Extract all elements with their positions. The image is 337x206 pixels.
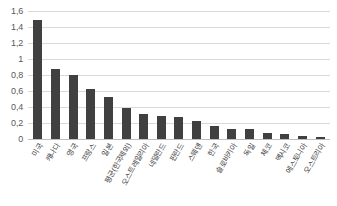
plot-area — [28, 11, 330, 139]
bar[interactable] — [157, 116, 166, 139]
y-axis-tick-label: 0,8 — [11, 71, 23, 80]
bar[interactable] — [316, 137, 325, 139]
bar-slot — [188, 11, 206, 139]
bar-slot — [152, 11, 170, 139]
bar[interactable] — [280, 134, 289, 139]
x-label-slot: 오스트레일리아 — [135, 140, 153, 206]
x-axis-tick-label: 스웨덴 — [187, 142, 204, 163]
x-label-slot: 영국 — [64, 140, 82, 206]
x-label-slot: 스웨덴 — [188, 140, 206, 206]
x-axis-tick-label: 핀란드 — [169, 142, 186, 163]
x-label-slot: 오스트리아 — [311, 140, 329, 206]
bar-slot — [170, 11, 188, 139]
y-axis-tick-label: 1 — [18, 55, 23, 64]
bar[interactable] — [192, 121, 201, 139]
x-label-slot: 미국 — [29, 140, 47, 206]
bar[interactable] — [245, 129, 254, 139]
x-axis-tick-label: 한국 — [208, 142, 222, 158]
x-axis-category-labels: 미국캐나다영국프랑스일본평균(한국제외)오스트레일리아네덜란드핀란드스웨덴한국슬… — [28, 140, 330, 206]
x-label-slot: 캐나다 — [47, 140, 65, 206]
bar[interactable] — [298, 136, 307, 139]
bar-slot — [311, 11, 329, 139]
x-axis-tick-label: 미국 — [31, 142, 45, 158]
bar-slot — [223, 11, 241, 139]
y-axis-tick-label: 0,6 — [11, 87, 23, 96]
bar-slot — [205, 11, 223, 139]
bar[interactable] — [227, 129, 236, 139]
x-label-slot: 프랑스 — [82, 140, 100, 206]
bar[interactable] — [139, 114, 148, 139]
bar-slot — [82, 11, 100, 139]
x-label-slot: 슬로바키아 — [223, 140, 241, 206]
bar[interactable] — [69, 75, 78, 139]
y-axis-tick-label: 0 — [18, 135, 23, 144]
x-label-slot: 네덜란드 — [152, 140, 170, 206]
bar-slot — [64, 11, 82, 139]
x-axis-tick-label: 독일 — [243, 142, 257, 158]
bar-slot — [135, 11, 153, 139]
y-axis-tick-label: 1,4 — [11, 23, 23, 32]
x-label-slot: 핀란드 — [170, 140, 188, 206]
bar[interactable] — [122, 108, 131, 139]
bar-slot — [117, 11, 135, 139]
x-label-slot: 체코 — [258, 140, 276, 206]
bar[interactable] — [86, 89, 95, 139]
y-axis-tick-label: 0,4 — [11, 103, 23, 112]
bar-slot — [241, 11, 259, 139]
x-axis-tick-label: 프랑스 — [81, 142, 98, 163]
bar-chart: 00,20,40,60,811,21,41,6 미국캐나다영국프랑스일본평균(한… — [0, 0, 337, 206]
x-label-slot: 독일 — [241, 140, 259, 206]
bar[interactable] — [51, 69, 60, 139]
y-axis-tick-labels: 00,20,40,60,811,21,41,6 — [0, 11, 26, 139]
bar-series — [28, 11, 330, 139]
bar[interactable] — [210, 126, 219, 139]
bar-slot — [276, 11, 294, 139]
y-axis-tick-label: 1,6 — [11, 7, 23, 16]
x-axis-tick-label: 체코 — [260, 142, 274, 158]
bar-slot — [29, 11, 47, 139]
bar[interactable] — [33, 20, 42, 139]
bar[interactable] — [263, 133, 272, 139]
bar[interactable] — [104, 97, 113, 139]
x-axis-tick-label: 일본 — [102, 142, 116, 158]
bar-slot — [294, 11, 312, 139]
y-axis-tick-label: 1,2 — [11, 39, 23, 48]
bar-slot — [100, 11, 118, 139]
x-axis-tick-label: 캐나다 — [45, 142, 62, 163]
bar[interactable] — [174, 117, 183, 139]
bar-slot — [258, 11, 276, 139]
x-axis-tick-label: 영국 — [66, 142, 80, 158]
bar-slot — [47, 11, 65, 139]
y-axis-tick-label: 0,2 — [11, 119, 23, 128]
